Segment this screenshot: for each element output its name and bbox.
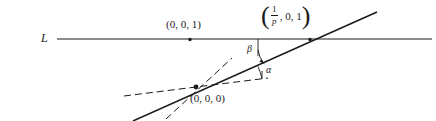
geometry-figure: L (0, 0, 1) ( 1 p , 0, 1 ) β α (0, 0, 0) [0, 0, 436, 121]
open-paren: ( [261, 5, 270, 26]
fraction-one-over-p: 1 p [270, 5, 279, 26]
dashed-steep-line [166, 58, 232, 119]
alpha-arc [258, 67, 262, 79]
label-line-L: L [41, 32, 48, 44]
fraction-denominator: p [271, 17, 278, 26]
point-marker-intersection [308, 38, 311, 41]
fraction-numerator: 1 [271, 5, 278, 14]
label-angle-beta: β [247, 44, 252, 54]
label-angle-alpha: α [266, 65, 271, 75]
label-point-001: (0, 0, 1) [166, 19, 201, 30]
point-marker-001 [188, 38, 191, 41]
label-point-000: (0, 0, 0) [190, 93, 225, 104]
label-point-one-over-p: ( 1 p , 0, 1 ) [261, 5, 310, 26]
close-paren: ) [302, 5, 311, 26]
coord-remainder: , 0, 1 [279, 10, 302, 22]
point-marker-origin [194, 85, 199, 90]
